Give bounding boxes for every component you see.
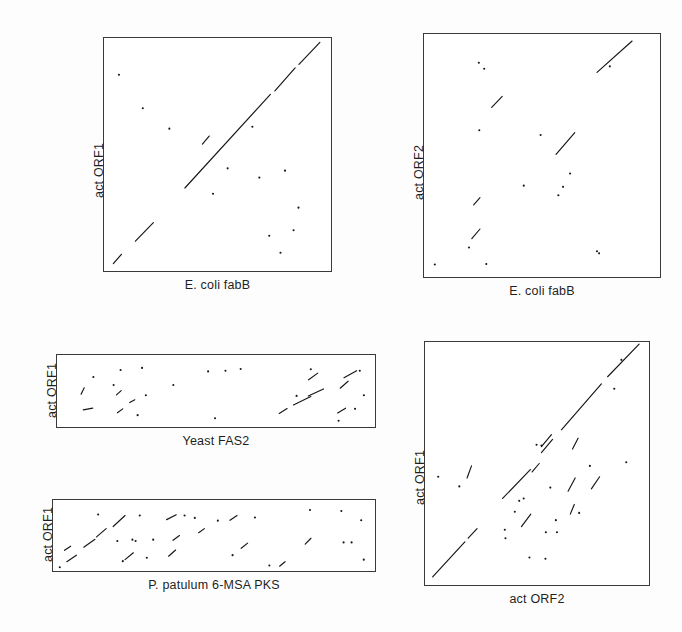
x-axis-label: E. coli fabB [423,284,661,298]
x-axis-label: act ORF2 [424,592,650,606]
y-axis-label: act ORF1 [92,143,106,198]
y-axis-label: act ORF1 [41,507,55,562]
panel-act-orf1-vs-ppatulum-6msa-pks: P. patulum 6-MSA PKS act ORF1 [52,499,376,572]
y-axis-label: act ORF2 [412,145,426,200]
dot-matrix-plot [103,37,332,272]
x-axis-label: Yeast FAS2 [56,434,376,448]
x-axis-label: P. patulum 6-MSA PKS [52,578,376,592]
dot-matrix-plot [424,341,650,586]
dot-matrix-plot [52,499,376,572]
panel-act-orf2-vs-ecoli-fabb: E. coli fabB act ORF2 [423,33,661,278]
y-axis-label: act ORF1 [45,363,59,418]
panel-act-orf1-vs-yeast-fas2: Yeast FAS2 act ORF1 [56,354,376,428]
dot-plot-figure: E. coli fabB act ORF1 E. coli fabB act O… [0,0,682,632]
x-axis-label: E. coli fabB [103,278,332,292]
dot-matrix-plot [423,33,661,278]
panel-act-orf1-vs-ecoli-fabb: E. coli fabB act ORF1 [103,37,332,272]
dot-matrix-plot [56,354,376,428]
panel-act-orf1-vs-act-orf2: act ORF2 act ORF1 [424,341,650,586]
y-axis-label: act ORF1 [413,450,427,505]
